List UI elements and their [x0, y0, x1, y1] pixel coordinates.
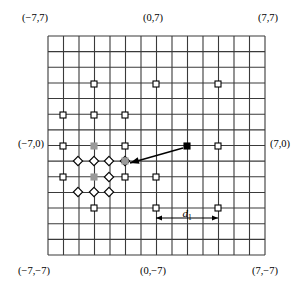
marker-open-diamond: [104, 156, 113, 165]
marker-open-square: [122, 174, 128, 180]
marker-open-square: [153, 81, 159, 87]
marker-gray-filled: [122, 158, 128, 164]
distance-arrow-right: [212, 215, 218, 220]
marker-open-square: [91, 112, 97, 118]
marker-open-diamond: [89, 156, 98, 165]
coord-label-top-left: (−7,7): [22, 12, 48, 23]
marker-gray-filled: [91, 174, 97, 180]
grid-lines: [48, 36, 265, 255]
coord-label-left-middle: (−7,0): [18, 138, 44, 149]
marker-open-square: [153, 174, 159, 180]
coord-label-bottom-right: (7,−7): [252, 265, 278, 276]
marker-open-square: [215, 205, 221, 211]
marker-open-square: [60, 143, 66, 149]
distance-annotation: d1: [156, 207, 218, 222]
marker-open-diamond: [73, 156, 82, 165]
coord-label-right-middle: (7,0): [270, 138, 290, 149]
coord-label-bottom-center: (0,−7): [140, 265, 166, 276]
marker-open-square: [122, 143, 128, 149]
coord-label-bottom-left: (−7,−7): [18, 265, 50, 276]
marker-open-diamond: [89, 187, 98, 196]
marker-gray-filled: [91, 143, 97, 149]
lattice-figure: d1 (−7,7)(0,7)(7,7)(−7,0)(7,0)(−7,−7)(0,…: [0, 0, 307, 293]
marker-open-square: [215, 81, 221, 87]
marker-open-square: [91, 205, 97, 211]
marker-open-square: [91, 81, 97, 87]
marker-open-square: [215, 143, 221, 149]
marker-open-square: [60, 174, 66, 180]
marker-open-diamond: [104, 187, 113, 196]
marker-open-square: [60, 112, 66, 118]
figure-canvas: d1: [0, 0, 307, 293]
coord-label-top-center: (0,7): [143, 12, 163, 23]
distance-label: d1: [182, 207, 192, 222]
arrow-head: [130, 157, 140, 164]
marker-open-diamond: [73, 187, 82, 196]
marker-open-square: [122, 112, 128, 118]
distance-label-sub: 1: [188, 213, 192, 222]
coord-label-top-right: (7,7): [258, 12, 278, 23]
marker-black-filled: [184, 143, 190, 149]
marker-open-square: [153, 205, 159, 211]
marker-open-diamond: [104, 172, 113, 181]
